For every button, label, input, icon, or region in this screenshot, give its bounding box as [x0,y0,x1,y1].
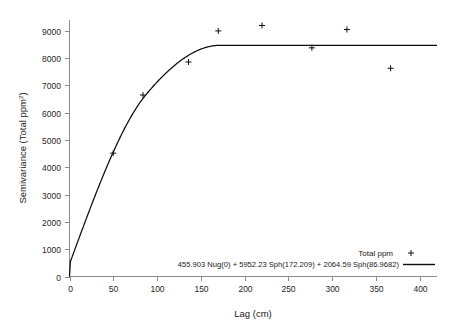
data-point-marker [388,65,394,71]
data-point-marker [215,28,221,34]
x-tick-label: 200 [238,284,252,294]
y-tick-label: 5000 [42,136,61,146]
y-tick-label: 1000 [42,245,61,255]
legend-entry-total-ppm-marker [408,250,414,256]
data-point-marker [344,27,350,33]
x-tick-label: 300 [325,284,339,294]
x-axis-title: Lag (cm) [234,308,271,319]
y-axis-title-close: ) [17,92,28,95]
legend-entry-total-ppm-label: Total ppm [358,249,393,258]
x-tick-label: 250 [281,284,295,294]
fitted-model-curve [70,45,438,276]
x-tick-label: 0 [68,284,73,294]
x-tick-label: 50 [109,284,119,294]
data-point-marker [259,22,265,28]
y-tick-label: 0 [56,273,61,283]
y-tick-label: 8000 [42,54,61,64]
y-axis-title: Semivariance (Total ppm2) [17,92,28,203]
data-point-group [110,22,393,156]
y-tick-label: 4000 [42,163,61,173]
variogram-chart: 0100020003000400050006000700080009000 05… [0,0,451,325]
y-axis-tick-group: 0100020003000400050006000700080009000 [42,27,69,283]
y-axis-title-base: Semivariance (Total ppm [17,99,28,204]
x-tick-label: 400 [413,284,427,294]
y-tick-label: 2000 [42,218,61,228]
y-tick-label: 6000 [42,109,61,119]
y-tick-label: 3000 [42,191,61,201]
data-point-marker [186,59,192,65]
x-tick-label: 100 [150,284,164,294]
y-tick-label: 9000 [42,27,61,37]
legend-entry-model-label: 455.903 Nug(0) + 5952.23 Sph(172.209) + … [178,260,400,269]
chart-canvas: 0100020003000400050006000700080009000 05… [0,0,451,325]
x-tick-label: 350 [369,284,383,294]
x-tick-label: 150 [194,284,208,294]
data-point-marker [140,92,146,98]
x-axis-tick-group: 050100150200250300350400 [68,277,428,295]
y-tick-label: 7000 [42,81,61,91]
